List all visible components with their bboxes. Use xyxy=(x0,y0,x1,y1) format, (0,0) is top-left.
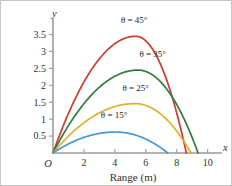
x-tick-label: 2 xyxy=(81,157,86,168)
x-axis-title: Range (m) xyxy=(110,171,157,184)
trajectory-theta-45 xyxy=(53,36,186,153)
y-tick-label: 2.5 xyxy=(34,63,47,74)
x-axis-symbol: x xyxy=(222,142,228,153)
x-tick-label: 6 xyxy=(143,157,148,168)
y-tick-label: 3 xyxy=(41,46,46,57)
x-tick-label: 8 xyxy=(174,157,179,168)
label-theta-45: θ = 45° xyxy=(121,15,148,25)
label-theta-25: θ = 25° xyxy=(122,83,149,93)
y-axis-ticks: 0.511.522.533.5 xyxy=(34,29,54,142)
x-tick-label: 4 xyxy=(112,157,117,168)
y-tick-label: 0.5 xyxy=(34,130,47,141)
trajectory-labels: θ = 45°θ = 35°θ = 25°θ = 15° xyxy=(101,15,167,120)
y-tick-label: 1.5 xyxy=(34,97,47,108)
y-axis-symbol: y xyxy=(51,8,57,19)
x-axis-ticks: 246810 xyxy=(81,149,212,168)
trajectory-curves xyxy=(53,36,198,153)
origin-label: O xyxy=(44,158,52,169)
label-theta-35: θ = 35° xyxy=(139,49,166,59)
y-tick-label: 1 xyxy=(41,114,46,125)
y-tick-label: 3.5 xyxy=(34,29,47,40)
x-tick-label: 10 xyxy=(203,157,213,168)
y-tick-label: 2 xyxy=(41,80,46,91)
chart-canvas: 0.511.522.533.5 246810 θ = 45°θ = 35°θ =… xyxy=(1,1,232,186)
projectile-motion-figure: 0.511.522.533.5 246810 θ = 45°θ = 35°θ =… xyxy=(0,0,232,186)
label-theta-15: θ = 15° xyxy=(101,110,128,120)
